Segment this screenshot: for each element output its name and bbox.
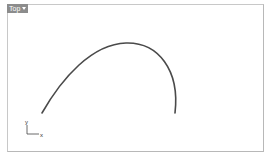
curve[interactable] bbox=[42, 43, 176, 113]
x-axis-label: x bbox=[40, 132, 43, 138]
y-axis-label: y bbox=[25, 119, 28, 125]
axis-gizmo: y x bbox=[25, 119, 43, 138]
viewport-canvas[interactable]: y x bbox=[0, 0, 267, 155]
